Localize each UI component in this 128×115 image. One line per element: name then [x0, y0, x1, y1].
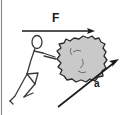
diagram-canvas — [0, 0, 128, 115]
person-hip-connector — [27, 74, 35, 84]
force-vector-label: F — [52, 12, 59, 24]
person-torso — [27, 49, 35, 75]
person-back-foot — [10, 101, 13, 104]
force-vector — [22, 28, 95, 34]
physics-diagram-figure: F a — [0, 0, 128, 115]
stick-figure-person — [10, 36, 56, 105]
person-upper-arm — [34, 51, 43, 53]
person-head — [32, 36, 42, 49]
acceleration-vector-label: a — [94, 79, 100, 89]
